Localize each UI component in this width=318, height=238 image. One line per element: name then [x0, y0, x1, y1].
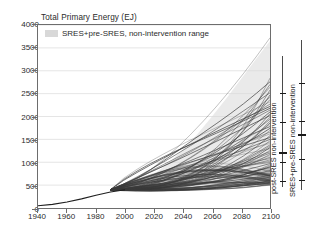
x-tick-label-2040: 2040: [174, 212, 192, 221]
range-bar-label: post-SRES non-intervention: [269, 102, 278, 194]
x-tick-label-1960: 1960: [57, 212, 75, 221]
x-tick-label-2060: 2060: [204, 212, 222, 221]
x-tick-mark-1980: [96, 209, 97, 213]
chart-title: Total Primary Energy (EJ): [41, 13, 137, 22]
x-tick-mark-2080: [242, 209, 243, 213]
x-tick-label-2020: 2020: [145, 212, 163, 221]
range-bar-spine: [301, 40, 302, 189]
x-tick-label-2100: 2100: [262, 212, 280, 221]
plot-area: [37, 24, 271, 209]
range-bar-tick: [299, 159, 305, 160]
legend: SRES+pre-SRES, non-intervention range: [45, 29, 209, 38]
x-tick-mark-2040: [183, 209, 184, 213]
range-bar-tick: [299, 83, 305, 84]
plot-canvas: [38, 25, 270, 208]
x-tick-mark-2000: [125, 209, 126, 213]
figure-root: Total Primary Energy (EJ) 05001000150020…: [0, 0, 318, 238]
range-bar-tick: [299, 121, 305, 122]
x-tick-label-1940: 1940: [28, 212, 46, 221]
x-tick-label-2080: 2080: [233, 212, 251, 221]
range-bar-tick: [299, 180, 305, 181]
range-bar-tick: [280, 162, 286, 163]
range-bar-tick: [280, 122, 286, 123]
x-tick-mark-2100: [271, 209, 272, 213]
legend-label-band: SRES+pre-SRES, non-intervention range: [62, 29, 209, 38]
range-bar-tick: [279, 152, 287, 154]
x-tick-mark-1960: [66, 209, 67, 213]
legend-swatch-band: [45, 30, 58, 37]
range-bar-tick: [298, 134, 306, 136]
historical-line: [38, 190, 125, 206]
range-bar-label: SRES+pre-SRES non-intervention: [288, 84, 297, 197]
range-bar-tick: [280, 181, 286, 182]
range-bar-tick: [280, 93, 286, 94]
x-tick-label-1980: 1980: [87, 212, 105, 221]
x-tick-mark-2020: [154, 209, 155, 213]
x-tick-label-2000: 2000: [116, 212, 134, 221]
x-tick-mark-1940: [37, 209, 38, 213]
x-tick-mark-2060: [213, 209, 214, 213]
